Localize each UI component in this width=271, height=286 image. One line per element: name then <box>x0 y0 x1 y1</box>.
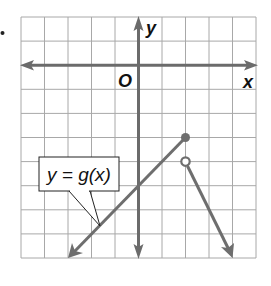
open-endpoint <box>181 157 189 165</box>
closed-endpoint <box>181 133 190 142</box>
problem-bullet <box>1 31 5 35</box>
callout-label: y = g(x) <box>45 164 111 185</box>
function-callout: y = g(x) <box>39 157 119 226</box>
y-axis-label: y <box>145 18 157 38</box>
x-axis-label: x <box>242 72 254 92</box>
graph-figure: y = g(x) y x O <box>0 0 271 286</box>
g-piece-right <box>181 157 234 258</box>
origin-label: O <box>118 71 132 91</box>
